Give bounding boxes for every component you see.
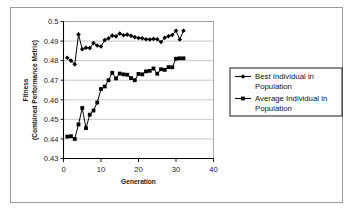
square-marker [140,72,144,76]
square-marker [103,85,107,89]
square-marker [99,87,103,91]
diamond-marker [140,36,145,41]
square-marker [73,137,77,141]
x-tick-label: 20 [134,165,142,174]
y-tick-label: 0.44 [44,135,59,144]
legend-label-line2: Population [255,82,292,91]
x-tick-label: 40 [209,165,217,174]
diamond-marker [125,32,130,37]
legend-label-line1: Average Individual in [255,94,327,103]
y-axis-title-line1: Fitness [22,78,29,101]
legend-label-line1: Best Individual in [255,72,314,81]
square-marker [167,65,171,69]
y-tick-label: 0.47 [44,76,59,85]
figure-container: 0.430.440.450.460.470.480.490.5010203040… [0,0,353,218]
square-marker [84,126,88,130]
y-tick-label: 0.48 [44,56,59,65]
square-marker [88,113,92,117]
diamond-marker [132,35,137,40]
square-marker [144,70,148,74]
y-tick-label: 0.43 [44,154,59,163]
square-marker [170,65,174,69]
square-marker [80,106,84,110]
square-marker [155,72,159,76]
square-marker [114,77,118,81]
square-marker [65,135,69,139]
legend: Best Individual inPopulationAverage Indi… [230,68,342,116]
y-tick-label: 0.49 [44,37,59,46]
legend-label-line2: Population [255,104,292,113]
square-marker [129,76,133,80]
y-tick-label: 0.46 [44,96,59,105]
square-marker [92,109,96,113]
square-marker [77,123,81,127]
square-marker [137,72,141,76]
square-marker [122,72,126,76]
square-marker [178,56,182,60]
square-marker [107,78,111,82]
y-tick-label: 0.45 [44,115,59,124]
square-marker [133,78,137,82]
square-marker [174,57,178,61]
x-axis-title: Generation [121,178,156,185]
square-marker [148,69,152,73]
square-marker [125,73,129,77]
square-marker [241,97,245,101]
x-tick-label: 30 [172,165,180,174]
square-marker [159,67,163,71]
diamond-marker [129,33,134,38]
diamond-marker [151,37,156,42]
square-marker [152,67,156,71]
y-axis-title-line2: (Combined Performance Metric) [31,40,39,140]
y-tick-label: 0.5 [48,17,59,26]
square-marker [69,134,73,138]
diamond-marker [136,36,141,41]
square-marker [182,56,186,60]
square-marker [163,68,167,72]
series-average [65,56,185,140]
square-marker [110,71,114,75]
x-tick-label: 10 [97,165,105,174]
square-marker [95,101,99,105]
diamond-marker [99,44,104,49]
x-tick-label: 0 [61,165,65,174]
fitness-vs-generation-chart: 0.430.440.450.460.470.480.490.5010203040… [0,0,353,218]
diamond-marker [181,28,186,33]
square-marker [118,72,122,76]
diamond-marker [76,32,81,37]
